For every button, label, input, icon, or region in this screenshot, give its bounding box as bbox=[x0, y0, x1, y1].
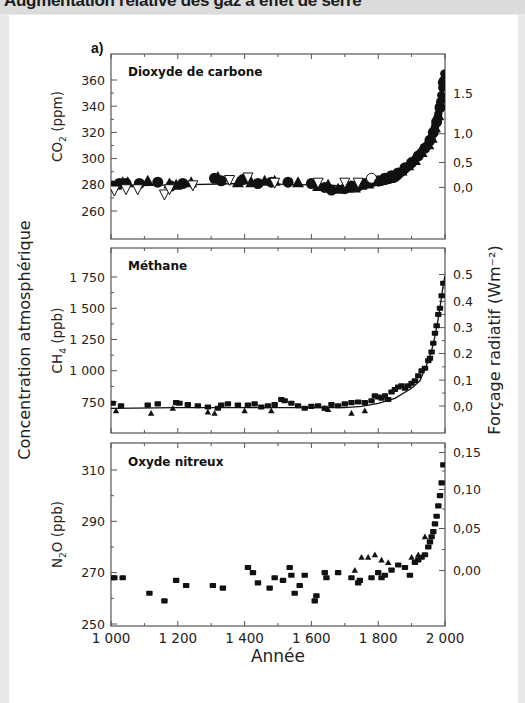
panel-title: Dioxyde de carbone bbox=[128, 65, 262, 79]
y-tick-label: 270 bbox=[81, 565, 105, 580]
panel-frame bbox=[111, 248, 445, 433]
y2-tick-label: 0,15 bbox=[453, 445, 481, 460]
y2-tick-label: 0,1 bbox=[453, 373, 473, 388]
y2-tick-label: 0.3 bbox=[453, 320, 473, 335]
ch4-panel: 7501 0001 2501 5001 7500.50.40.30.20,10,… bbox=[49, 248, 473, 433]
y2-tick-label: 0,5 bbox=[453, 155, 473, 170]
panel-frame bbox=[111, 443, 445, 626]
y2-tick-label: 1.5 bbox=[453, 86, 473, 101]
x-tick-label: 1 000 bbox=[92, 630, 131, 646]
y-axis-title: N2O (ppb) bbox=[49, 501, 68, 568]
y2-tick-label: 0,05 bbox=[453, 521, 481, 536]
y2-tick-label: 0,10 bbox=[453, 482, 481, 497]
data-points bbox=[109, 276, 446, 416]
ghg-concentration-figure: 2602803003203403601.51,00,50,0Dioxyde de… bbox=[0, 0, 525, 703]
y2-tick-label: 1,0 bbox=[453, 126, 473, 141]
y2-tick-label: 0,00 bbox=[453, 563, 481, 578]
y-tick-label: 340 bbox=[81, 99, 105, 114]
y-tick-label: 290 bbox=[81, 514, 105, 529]
data-points bbox=[107, 70, 449, 200]
y2-tick-label: 0,0 bbox=[453, 180, 473, 195]
y-tick-label: 1 000 bbox=[69, 363, 105, 378]
left-axis-title: Concentration atmosphérique bbox=[15, 220, 34, 459]
y-axis-title: CH4 (ppb) bbox=[49, 308, 68, 374]
co2-panel: 2602803003203403601.51,00,50,0Dioxyde de… bbox=[49, 54, 473, 239]
y-tick-label: 750 bbox=[81, 395, 105, 410]
y-tick-label: 360 bbox=[81, 73, 105, 88]
x-tick-label: 2 000 bbox=[426, 630, 465, 646]
panel-frame bbox=[111, 54, 445, 239]
y-tick-label: 260 bbox=[81, 204, 105, 219]
x-tick-label: 1 600 bbox=[292, 630, 331, 646]
y2-tick-label: 0.2 bbox=[453, 346, 473, 361]
y-tick-label: 1 500 bbox=[69, 301, 105, 316]
y2-tick-label: 0,0 bbox=[453, 399, 473, 414]
x-axis-title: Année bbox=[251, 646, 305, 666]
x-tick-label: 1 400 bbox=[225, 630, 264, 646]
right-axis-title: Forçage radiatif (Wm⁻²) bbox=[485, 245, 504, 434]
y-tick-label: 1 250 bbox=[69, 332, 105, 347]
x-axis: 1 0001 2001 4001 6001 8002 000 bbox=[92, 630, 465, 646]
y-tick-label: 1 750 bbox=[69, 270, 105, 285]
panel-title: Méthane bbox=[128, 259, 187, 273]
y-tick-label: 310 bbox=[81, 463, 105, 478]
y-tick-label: 300 bbox=[81, 151, 105, 166]
y2-tick-label: 0.5 bbox=[453, 267, 473, 282]
y-axis-title: CO2 (ppm) bbox=[49, 91, 68, 162]
x-tick-label: 1 800 bbox=[359, 630, 398, 646]
n2o-panel: 2502702903100,150,100,050,00Oxyde nitreu… bbox=[49, 443, 481, 632]
y2-tick-label: 0.4 bbox=[453, 294, 473, 309]
panel-title: Oxyde nitreux bbox=[128, 455, 224, 469]
x-tick-label: 1 200 bbox=[158, 630, 197, 646]
y-tick-label: 280 bbox=[81, 177, 105, 192]
data-points bbox=[109, 462, 446, 603]
y-tick-label: 320 bbox=[81, 125, 105, 140]
